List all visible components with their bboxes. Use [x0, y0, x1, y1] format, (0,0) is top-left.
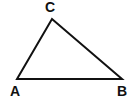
vertex-label-a: A [10, 84, 20, 98]
triangle-figure: C A B [0, 0, 135, 101]
vertex-label-c: C [45, 0, 55, 14]
triangle-outline [17, 19, 122, 79]
vertex-label-b: B [117, 84, 127, 98]
triangle-shape [0, 0, 135, 101]
